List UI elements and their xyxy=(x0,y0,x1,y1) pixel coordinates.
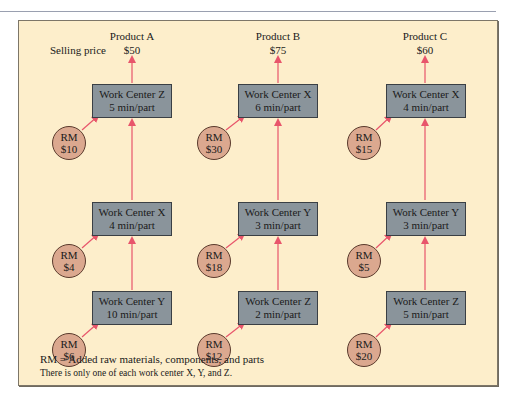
product-b-work-center-3: Work Center Z 2 min/part xyxy=(238,291,318,325)
rm-label: RM xyxy=(355,338,372,350)
rm-cost: $4 xyxy=(64,261,75,273)
product-c-name: Product C xyxy=(395,30,455,42)
product-b-work-center-2: Work Center Y 3 min/part xyxy=(238,202,318,236)
rm-label: RM xyxy=(355,131,372,143)
work-center-title: Work Center X xyxy=(245,88,312,101)
work-center-title: Work Center X xyxy=(393,88,460,101)
work-center-time: 3 min/part xyxy=(255,219,301,232)
rm-label: RM xyxy=(205,338,222,350)
product-b-work-center-1: Work Center X 6 min/part xyxy=(238,84,318,118)
work-center-title: Work Center Z xyxy=(99,88,165,101)
legend-rm-definition: RM = Added raw materials, components, an… xyxy=(40,353,264,365)
work-center-title: Work Center Y xyxy=(99,295,166,308)
product-c-rm-2: RM $5 xyxy=(347,244,381,278)
legend-note: There is only one of each work center X,… xyxy=(40,368,232,378)
work-center-time: 6 min/part xyxy=(255,101,301,114)
product-a-work-center-3: Work Center Y 10 min/part xyxy=(92,291,172,325)
rm-label: RM xyxy=(60,338,77,350)
rm-label: RM xyxy=(205,249,222,261)
product-a-rm-1: RM $10 xyxy=(52,126,86,160)
work-center-title: Work Center Y xyxy=(245,206,312,219)
work-center-time: 4 min/part xyxy=(109,219,155,232)
product-a-name: Product A xyxy=(102,30,162,42)
rm-label: RM xyxy=(205,131,222,143)
rm-cost: $10 xyxy=(61,143,78,155)
rm-cost: $30 xyxy=(206,143,223,155)
product-b-name: Product B xyxy=(248,30,308,42)
rm-cost: $15 xyxy=(356,143,373,155)
product-a-rm-2: RM $4 xyxy=(52,244,86,278)
rm-label: RM xyxy=(60,249,77,261)
work-center-time: 4 min/part xyxy=(403,101,449,114)
product-b-rm-2: RM $18 xyxy=(197,244,231,278)
product-b-rm-1: RM $30 xyxy=(197,126,231,160)
rm-cost: $18 xyxy=(206,261,223,273)
product-a-work-center-2: Work Center X 4 min/part xyxy=(92,202,172,236)
work-center-time: 5 min/part xyxy=(403,308,449,321)
work-center-title: Work Center Z xyxy=(393,295,459,308)
product-c-work-center-1: Work Center X 4 min/part xyxy=(386,84,466,118)
product-c-work-center-3: Work Center Z 5 min/part xyxy=(386,291,466,325)
product-c-rm-3: RM $20 xyxy=(347,333,381,367)
product-a-price: $50 xyxy=(112,44,152,56)
work-center-time: 10 min/part xyxy=(106,308,157,321)
rm-label: RM xyxy=(60,131,77,143)
work-center-time: 2 min/part xyxy=(255,308,301,321)
work-center-time: 3 min/part xyxy=(403,219,449,232)
product-a-work-center-1: Work Center Z 5 min/part xyxy=(92,84,172,118)
rm-cost: $20 xyxy=(356,350,373,362)
rm-label: RM xyxy=(355,249,372,261)
product-c-price: $60 xyxy=(405,44,445,56)
rm-cost: $5 xyxy=(359,261,370,273)
work-center-title: Work Center Y xyxy=(393,206,460,219)
work-center-title: Work Center X xyxy=(99,206,166,219)
product-c-rm-1: RM $15 xyxy=(347,126,381,160)
work-center-title: Work Center Z xyxy=(245,295,311,308)
product-b-price: $75 xyxy=(258,44,298,56)
work-center-time: 5 min/part xyxy=(109,101,155,114)
product-c-work-center-2: Work Center Y 3 min/part xyxy=(386,202,466,236)
selling-price-label: Selling price xyxy=(50,44,106,56)
